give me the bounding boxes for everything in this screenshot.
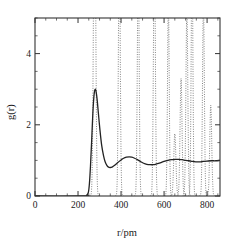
- y-tick-label: 0: [26, 191, 31, 201]
- x-tick-label: 800: [200, 200, 215, 210]
- x-tick-label: 0: [33, 200, 38, 210]
- rdf-chart-figure: 0200400600800 024 r/pm g(r): [0, 0, 235, 249]
- y-tick-label: 2: [26, 120, 31, 130]
- y-tick-label: 4: [26, 49, 31, 59]
- radial-distribution-plot: 0200400600800 024 r/pm g(r): [0, 0, 235, 249]
- x-tick-label: 200: [71, 200, 86, 210]
- x-tick-label: 600: [157, 200, 172, 210]
- x-axis-title: r/pm: [117, 227, 137, 238]
- y-axis-title: g(r): [5, 104, 17, 120]
- x-tick-label: 400: [114, 200, 129, 210]
